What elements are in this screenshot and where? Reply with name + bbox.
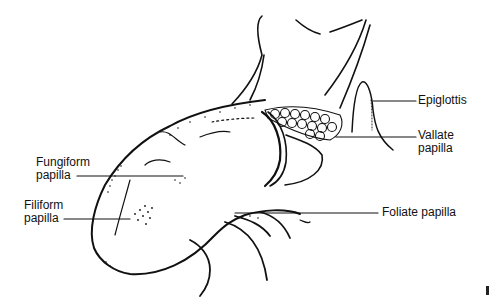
label-foliate-text: Foliate papilla (382, 206, 456, 219)
leader-lines (64, 101, 416, 219)
vallate-papillae (265, 107, 342, 141)
label-filiform-line2: papilla (24, 212, 63, 225)
label-fungiform-papilla: Fungiform papilla (36, 156, 90, 182)
label-filiform-papilla: Filiform papilla (24, 199, 63, 225)
label-foliate-papilla: Foliate papilla (382, 206, 456, 219)
sulcus-region (262, 112, 322, 186)
corner-mark (486, 286, 489, 295)
label-fungiform-line2: papilla (36, 169, 90, 182)
epiglottis-shape (352, 82, 393, 150)
label-vallate-line2: papilla (418, 142, 454, 155)
label-vallate-papilla: Vallate papilla (418, 129, 454, 155)
tongue-diagram: Epiglottis Vallate papilla Fungiform pap… (0, 0, 493, 308)
label-epiglottis-text: Epiglottis (418, 94, 467, 107)
pharynx-outline (232, 16, 370, 108)
label-epiglottis: Epiglottis (418, 94, 467, 107)
